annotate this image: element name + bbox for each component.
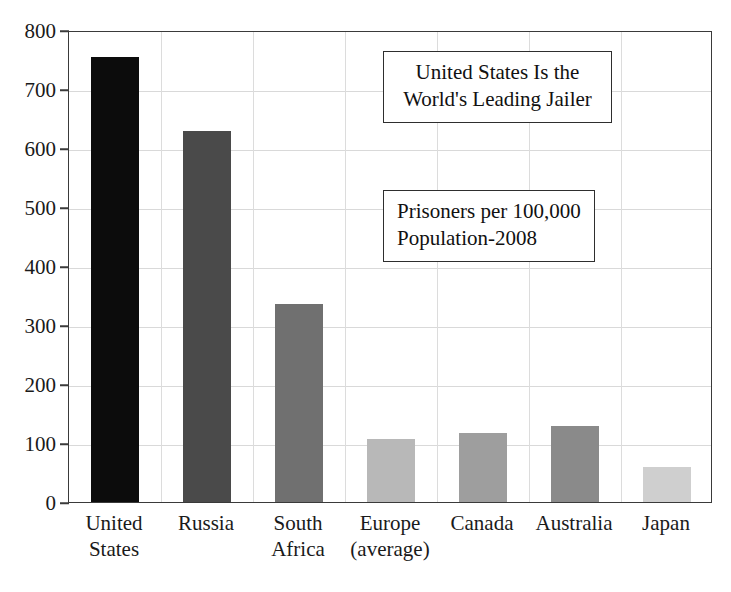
bar-slot [161, 32, 253, 502]
bar-slot [253, 32, 345, 502]
x-axis-tick-label: Japan [620, 511, 712, 537]
x-axis-tick-label: South Africa [252, 511, 344, 563]
chart-subtitle-line-2: Population-2008 [397, 225, 581, 252]
bar [183, 131, 231, 502]
chart-title-box: United States Is the World's Leading Jai… [383, 51, 612, 123]
bar [459, 433, 507, 502]
y-axis-tick-label: 500 [0, 198, 56, 219]
bar [643, 467, 691, 502]
chart-title-line-1: United States Is the [397, 59, 598, 86]
y-axis-tick-label: 600 [0, 139, 56, 160]
bar [275, 304, 323, 502]
y-axis-tick-label: 0 [0, 493, 56, 514]
y-axis-tick-label: 200 [0, 375, 56, 396]
bar-chart-figure: 0100200300400500600700800 United StatesR… [0, 0, 731, 592]
x-axis-tick-label: United States [68, 511, 160, 563]
y-axis-tick-label: 300 [0, 316, 56, 337]
chart-subtitle-box: Prisoners per 100,000 Population-2008 [383, 190, 595, 262]
x-axis-tick-label: Canada [436, 511, 528, 537]
bar-slot [621, 32, 713, 502]
bar-slot [69, 32, 161, 502]
x-axis-tick-label: Russia [160, 511, 252, 537]
chart-title-line-2: World's Leading Jailer [397, 86, 598, 113]
bar [551, 426, 599, 502]
y-axis-tick-label: 700 [0, 80, 56, 101]
y-axis-tick-label: 400 [0, 257, 56, 278]
bar [367, 439, 415, 502]
chart-subtitle-line-1: Prisoners per 100,000 [397, 198, 581, 225]
x-axis-tick-label: Australia [528, 511, 620, 537]
y-axis-tick-label: 100 [0, 434, 56, 455]
x-axis-tick-label: Europe (average) [344, 511, 436, 563]
y-axis-tick-label: 800 [0, 21, 56, 42]
bar [91, 57, 139, 502]
